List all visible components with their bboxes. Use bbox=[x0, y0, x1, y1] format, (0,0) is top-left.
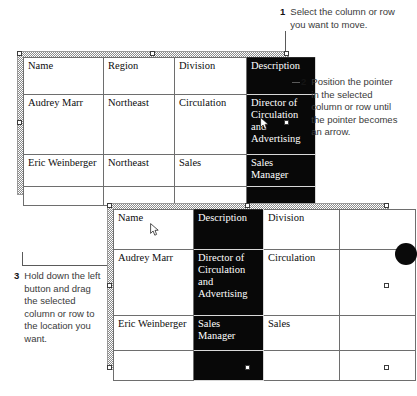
table-before-move[interactable]: Name Region Division Description Audrey … bbox=[17, 51, 289, 195]
handle-bottom-left[interactable] bbox=[107, 365, 112, 370]
cell-description-1[interactable]: Director of Circulation and Advertising bbox=[194, 250, 264, 316]
step-1-number: 1 bbox=[280, 6, 285, 19]
handle-top-left[interactable] bbox=[107, 203, 112, 208]
cell-division-1[interactable]: Circulation bbox=[175, 95, 247, 155]
table-row[interactable]: Audrey Marr Northeast Circulation Direct… bbox=[24, 95, 316, 155]
cell-division-2[interactable]: Sales bbox=[264, 316, 340, 351]
table-grid[interactable]: Name Region Division Description Audrey … bbox=[23, 57, 316, 206]
step-1-text: Select the column or row you want to mov… bbox=[290, 6, 406, 31]
step-3-number: 3 bbox=[14, 270, 19, 283]
cell-description-header[interactable]: Description bbox=[194, 210, 264, 250]
cell-description-2[interactable]: Sales Manager bbox=[194, 316, 264, 351]
handle-top-left[interactable] bbox=[17, 51, 22, 56]
cell-division-header[interactable]: Division bbox=[264, 210, 340, 250]
cell-blank-3[interactable] bbox=[340, 351, 416, 381]
cell-description-3[interactable] bbox=[194, 351, 264, 381]
handle-bottom-right[interactable] bbox=[384, 365, 389, 370]
step-3-leader-line-horizontal bbox=[22, 265, 107, 266]
cell-name-3[interactable] bbox=[24, 187, 104, 206]
step-3-leader-line-vertical bbox=[22, 252, 23, 266]
cell-description-2[interactable]: Sales Manager bbox=[247, 155, 316, 187]
handle-bottom-center[interactable] bbox=[245, 365, 250, 370]
step-3-text: Hold down the left button and drag the s… bbox=[24, 270, 106, 346]
cell-division-2[interactable]: Sales bbox=[175, 155, 247, 187]
table-row[interactable]: Eric Weinberger Northeast Sales Sales Ma… bbox=[24, 155, 316, 187]
step-3: 3 Hold down the left button and drag the… bbox=[14, 270, 106, 346]
cell-region-2[interactable]: Northeast bbox=[104, 155, 175, 187]
cell-name-header[interactable]: Name bbox=[114, 210, 194, 250]
cell-name-2[interactable]: Eric Weinberger bbox=[24, 155, 104, 187]
table-row[interactable]: Name Region Division Description bbox=[24, 58, 316, 95]
cell-division-3[interactable] bbox=[264, 351, 340, 381]
handle-mid-right[interactable] bbox=[284, 120, 289, 125]
table-after-move[interactable]: Name Description Division Audrey Marr Di… bbox=[107, 203, 389, 370]
step-2-leader-line bbox=[292, 82, 300, 83]
step-2: 2 Position the pointer in the selected c… bbox=[301, 76, 401, 139]
cell-division-header[interactable]: Division bbox=[175, 58, 247, 95]
handle-top-center[interactable] bbox=[150, 51, 155, 56]
cell-name-header[interactable]: Name bbox=[24, 58, 104, 95]
handle-top-right[interactable] bbox=[384, 203, 389, 208]
cell-name-3[interactable] bbox=[114, 351, 194, 381]
table-row[interactable]: Eric Weinberger Sales Manager Sales bbox=[114, 316, 416, 351]
cell-name-1[interactable]: Audrey Marr bbox=[24, 95, 104, 155]
step-1: 1 Select the column or row you want to m… bbox=[280, 6, 406, 31]
step-2-text: Position the pointer in the selected col… bbox=[311, 76, 401, 139]
cell-name-2[interactable]: Eric Weinberger bbox=[114, 316, 194, 351]
table-row[interactable] bbox=[114, 351, 416, 381]
handle-top-center[interactable] bbox=[245, 203, 250, 208]
handle-mid-left[interactable] bbox=[107, 283, 112, 288]
cell-division-1[interactable]: Circulation bbox=[264, 250, 340, 316]
handle-mid-right[interactable] bbox=[384, 283, 389, 288]
handle-mid-left[interactable] bbox=[17, 120, 22, 125]
cell-blank-2[interactable] bbox=[340, 316, 416, 351]
step-2-number: 2 bbox=[301, 76, 306, 89]
page-edge-bullet bbox=[395, 243, 417, 265]
handle-top-right[interactable] bbox=[284, 51, 289, 56]
table-row[interactable]: Audrey Marr Director of Circulation and … bbox=[114, 250, 416, 316]
cell-region-header[interactable]: Region bbox=[104, 58, 175, 95]
table-row[interactable]: Name Description Division bbox=[114, 210, 416, 250]
table-grid[interactable]: Name Description Division Audrey Marr Di… bbox=[113, 209, 416, 381]
cell-name-1[interactable]: Audrey Marr bbox=[114, 250, 194, 316]
cell-region-1[interactable]: Northeast bbox=[104, 95, 175, 155]
